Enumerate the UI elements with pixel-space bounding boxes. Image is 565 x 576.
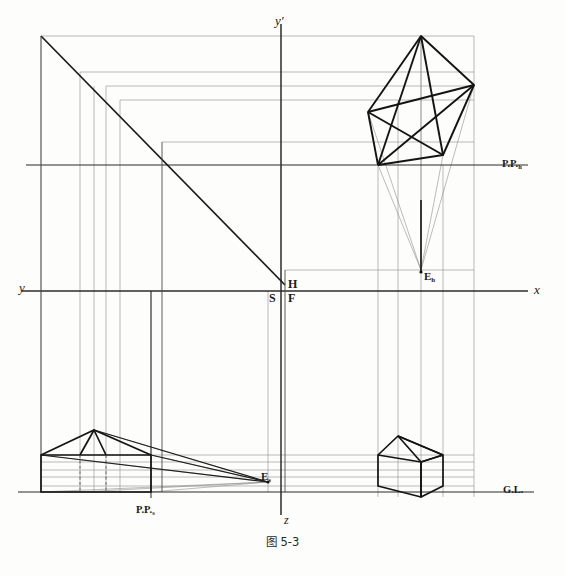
label-picture-plane-h: P.P.h — [502, 159, 522, 170]
perspective-view-house — [378, 436, 443, 497]
figure-canvas: y′ y x z H S F Eh Es P.P.h P.P.s G.L. 图 … — [0, 0, 565, 576]
label-station-f: F — [288, 292, 295, 304]
label-picture-plane-s: P.P.s — [136, 505, 155, 516]
label-station-h: H — [288, 278, 297, 290]
label-eye-point-plan: Eh — [424, 271, 435, 284]
figure-caption: 图 5-3 — [0, 533, 565, 549]
label-ground-line: G.L. — [503, 485, 523, 496]
label-x-axis: x — [534, 283, 540, 296]
field-verticals — [41, 36, 285, 492]
label-eye-point-side: Es — [261, 471, 271, 484]
axes — [18, 24, 534, 515]
diagram-svg-wrapper — [0, 0, 565, 576]
label-y-axis: y — [19, 281, 25, 294]
label-z-axis: z — [284, 514, 289, 526]
elevation-view-house — [41, 430, 268, 492]
construction-lines — [41, 36, 474, 497]
projection-diagram — [0, 0, 565, 576]
mitre-line-45deg — [41, 36, 285, 285]
label-station-s: S — [269, 292, 276, 304]
label-y-prime-axis: y′ — [275, 14, 284, 27]
eye-point-markers — [266, 200, 422, 484]
